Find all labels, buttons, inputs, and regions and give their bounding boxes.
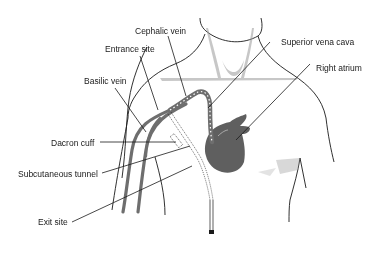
cephalic-vein-shape [138,104,186,212]
basilic-vein-shape [123,110,170,212]
label-exit-site: Exit site [38,217,68,227]
label-entrance-site: Entrance site [105,44,155,54]
label-subcutaneous-tunnel: Subcutaneous tunnel [18,169,98,179]
dacron-cuff-shape [170,134,183,148]
veins [123,104,186,212]
leader-lines [72,36,310,222]
label-basilic-vein: Basilic vein [84,76,127,86]
label-cephalic-vein: Cephalic vein [135,26,186,36]
label-superior-vena-cava: Superior vena cava [281,37,354,47]
label-dacron-cuff: Dacron cuff [51,138,94,148]
catheter [168,92,214,234]
label-right-atrium: Right atrium [316,63,362,73]
